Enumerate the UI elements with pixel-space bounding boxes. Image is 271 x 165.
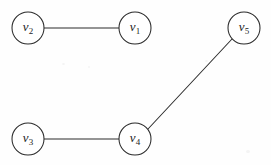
vertex-label-v4-subscript: 4 [136, 137, 141, 147]
vertex-label-v2-base: v [23, 19, 29, 34]
vertex-label-v1: v1 [130, 20, 140, 36]
vertex-label-v4: v4 [130, 131, 140, 147]
vertex-label-v5-base: v [239, 19, 245, 34]
edge-v4-v5 [148, 39, 232, 129]
vertex-label-v3-base: v [23, 130, 29, 145]
vertex-label-v1-base: v [130, 19, 136, 34]
vertex-label-v2-subscript: 2 [29, 26, 34, 36]
vertex-label-v1-subscript: 1 [136, 26, 141, 36]
vertex-label-v2: v2 [23, 20, 33, 36]
vertex-label-v3: v3 [23, 131, 33, 147]
graph-figure: v1 v2 v3 v4 v5 [0, 0, 271, 165]
vertex-label-v4-base: v [130, 130, 136, 145]
edge-group [44, 28, 232, 139]
vertex-label-v5: v5 [239, 20, 249, 36]
vertex-label-v5-subscript: 5 [245, 26, 250, 36]
vertex-label-v3-subscript: 3 [29, 137, 34, 147]
